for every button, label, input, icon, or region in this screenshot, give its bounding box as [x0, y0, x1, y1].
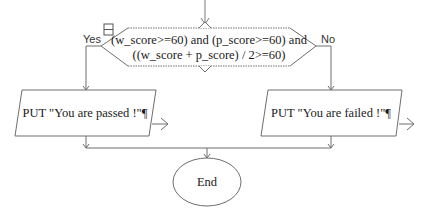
- decision-condition-line1: (w_score>=60) and (p_score>=60) and: [111, 33, 308, 47]
- output-node-failed[interactable]: PUT "You are failed !"¶: [261, 90, 414, 136]
- decision-node[interactable]: (w_score>=60) and (p_score>=60) and ((w_…: [101, 22, 316, 72]
- decision-condition-line2: ((w_score + p_score) / 2>=60): [132, 48, 285, 62]
- output-failed-text: PUT "You are failed !"¶: [271, 106, 391, 120]
- merge-connector: [83, 136, 334, 158]
- yes-label: Yes: [83, 33, 101, 45]
- no-connector: [316, 46, 334, 90]
- end-label: End: [197, 175, 218, 189]
- end-terminal[interactable]: End: [173, 158, 241, 206]
- no-label: No: [321, 33, 335, 45]
- output-passed-text: PUT "You are passed !"¶: [23, 106, 148, 120]
- flowchart-canvas: (w_score>=60) and (p_score>=60) and ((w_…: [0, 0, 426, 221]
- collapse-box-icon[interactable]: [104, 24, 113, 35]
- yes-connector: [83, 46, 101, 90]
- output-node-passed[interactable]: PUT "You are passed !"¶: [15, 90, 168, 136]
